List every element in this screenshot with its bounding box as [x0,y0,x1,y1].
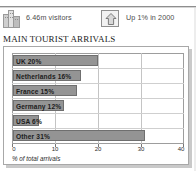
bar-row: Netherlands 16% [12,70,184,81]
chart-title: MAIN TOURIST ARRIVALS [3,34,116,44]
x-tick-label-0: 0 [12,146,15,152]
plot-area: UK 20% Netherlands 16% France 15% German… [12,53,184,144]
bar-row: Other 31% [12,130,184,141]
bar-label-netherlands: Netherlands 16% [16,72,71,79]
x-tick-label-30: 30 [138,146,145,152]
bar-label-france: France 15% [16,87,54,94]
buildings-icon [3,9,22,28]
up-arrow-icon [101,9,120,28]
page-gutter [194,8,196,171]
stats-row: 6.46m visitors Up 1% in 2000 [0,8,196,30]
chart-frame: UK 20% Netherlands 16% France 15% German… [3,46,189,165]
bar-label-uk: UK 20% [16,57,41,64]
stat-change-value: Up 1% in 2000 [126,13,174,22]
bar-row: Germany 12% [12,100,184,111]
bar-row: USA 6% [12,115,184,126]
x-axis: 0 10 20 30 40 [12,144,184,154]
tourist-arrivals-chart: UK 20% Netherlands 16% France 15% German… [3,46,193,169]
bar-row: France 15% [12,85,184,96]
x-tick-label-10: 10 [52,146,59,152]
bar-row: UK 20% [12,55,184,66]
bar-label-germany: Germany 12% [16,102,61,109]
bar-label-usa: USA 6% [16,117,42,124]
tourism-stats-panel: 6.46m visitors Up 1% in 2000 MAIN TOURIS… [0,0,196,171]
x-axis-title: % of total arrivals [12,155,60,162]
bar-rows: UK 20% Netherlands 16% France 15% German… [12,53,184,144]
x-tick-label-20: 20 [95,146,102,152]
bar-label-other: Other 31% [16,132,50,139]
stat-visitors-value: 6.46m visitors [26,13,72,22]
x-tick-label-40: 40 [178,146,185,152]
